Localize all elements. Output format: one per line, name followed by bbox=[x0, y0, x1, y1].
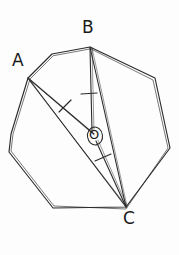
segment-OC-echo bbox=[98, 140, 127, 206]
vertex-label-b: B bbox=[82, 19, 94, 36]
segment-OA-echo bbox=[29, 79, 94, 135]
chord-AC-echo bbox=[29, 80, 127, 207]
tick-mark-on-OC bbox=[95, 154, 111, 161]
vertex-label-c: C bbox=[123, 210, 135, 227]
chord-segments bbox=[28, 47, 127, 207]
vertex-label-a: A bbox=[12, 52, 24, 69]
center-label-o: O bbox=[89, 128, 99, 141]
segment-OB bbox=[90, 48, 92, 131]
tick-mark-on-OB bbox=[81, 93, 97, 94]
radius-segments bbox=[28, 48, 127, 207]
geometry-figure: A B C O bbox=[0, 0, 179, 255]
